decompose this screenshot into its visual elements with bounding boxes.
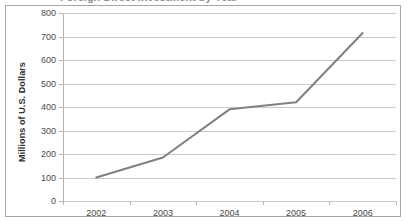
y-tick-label: 0 [51,197,56,206]
x-tick-mark [263,201,264,205]
series-line-chart [63,13,396,201]
x-tick-label: 2006 [353,209,373,218]
x-tick-mark [196,201,197,205]
x-tick-mark [329,201,330,205]
y-tick-label: 500 [41,79,56,88]
x-tick-mark [63,201,64,205]
x-tick-mark [130,201,131,205]
y-tick-label: 200 [41,150,56,159]
y-tick-label: 700 [41,32,56,41]
y-tick-label: 300 [41,126,56,135]
plot-area: 0100200300400500600700800 20022003200420… [63,13,396,201]
x-tick-label: 2002 [86,209,106,218]
y-tick-label: 800 [41,9,56,18]
series-polyline [96,33,362,178]
y-tick-label: 600 [41,56,56,65]
y-axis-title-text: Millions of U.S. Dollars [17,62,27,162]
y-axis-title: Millions of U.S. Dollars [15,6,29,218]
y-tick-label: 400 [41,103,56,112]
x-tick-mark [396,201,397,205]
y-tick-label: 100 [41,173,56,182]
x-tick-label: 2005 [286,209,306,218]
gridline [63,201,396,202]
x-tick-label: 2004 [219,209,239,218]
x-tick-label: 2003 [153,209,173,218]
chart-frame: Millions of U.S. Dollars 010020030040050… [5,5,401,217]
clipped-chart-title-text: Foreign Direct Investment by Year [60,0,238,3]
